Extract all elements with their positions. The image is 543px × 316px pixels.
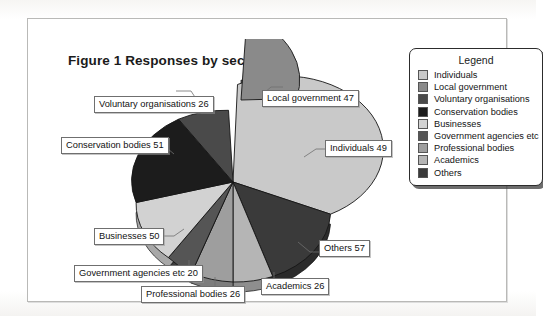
legend-item: Voluntary organisations <box>410 93 542 105</box>
callout-voluntary-organisations: Voluntary organisations 26 <box>94 96 214 113</box>
callout-local-government: Local government 47 <box>262 90 359 107</box>
callout-academics: Academics 26 <box>261 278 329 295</box>
callout-conservation-bodies: Conservation bodies 51 <box>61 137 169 154</box>
legend-swatch <box>418 94 428 104</box>
legend-swatch <box>418 155 428 165</box>
legend-box: Legend IndividualsLocal governmentVolunt… <box>409 48 543 186</box>
legend-item-label: Academics <box>434 155 479 165</box>
legend-swatch <box>418 107 428 117</box>
legend-swatch <box>418 143 428 153</box>
legend-swatch <box>418 82 428 92</box>
legend-item-label: Professional bodies <box>434 143 514 153</box>
legend-item-label: Conservation bodies <box>434 107 518 117</box>
legend-item-label: Voluntary organisations <box>434 94 530 104</box>
legend-item: Individuals <box>410 69 542 81</box>
legend-title: Legend <box>410 53 542 69</box>
legend-item: Local government <box>410 81 542 93</box>
legend-item: Conservation bodies <box>410 106 542 118</box>
legend-swatch <box>418 131 428 141</box>
legend-swatch <box>418 119 428 129</box>
legend-item-label: Others <box>434 168 462 178</box>
callout-others: Others 57 <box>319 240 370 257</box>
legend-item: Others <box>410 167 542 179</box>
legend-item-label: Businesses <box>434 119 481 129</box>
legend-swatch <box>418 168 428 178</box>
legend-item-label: Individuals <box>434 70 477 80</box>
legend-item: Academics <box>410 154 542 166</box>
callout-government-agencies: Government agencies etc 20 <box>74 265 203 282</box>
legend-item-label: Government agencies etc <box>434 131 539 141</box>
legend-item: Government agencies etc <box>410 130 542 142</box>
figure-frame: Figure 1 Responses by sector <box>27 18 507 302</box>
legend-item: Professional bodies <box>410 142 542 154</box>
callout-businesses: Businesses 50 <box>94 228 164 245</box>
legend-swatch <box>418 70 428 80</box>
legend-item-label: Local government <box>434 82 507 92</box>
legend-rows: IndividualsLocal governmentVoluntary org… <box>410 69 542 179</box>
legend-item: Businesses <box>410 118 542 130</box>
callout-individuals: Individuals 49 <box>325 140 392 157</box>
callout-professional-bodies: Professional bodies 26 <box>141 286 245 303</box>
